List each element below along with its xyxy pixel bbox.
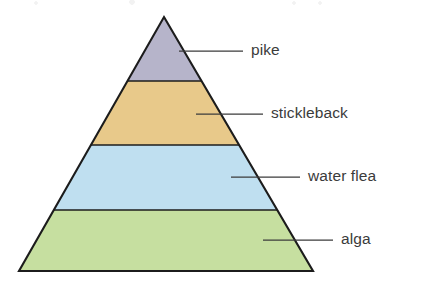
figure-canvas: pike stickleback water flea alga	[0, 0, 428, 290]
label-pike: pike	[251, 41, 280, 58]
ecological-pyramid-diagram: pike stickleback water flea alga	[0, 0, 428, 290]
label-stickleback: stickleback	[271, 104, 348, 121]
pyramid-band-pike[interactable]	[127, 17, 201, 81]
label-water-flea: water flea	[307, 167, 376, 184]
label-alga: alga	[341, 230, 371, 247]
pyramid-band-stickleback[interactable]	[91, 81, 239, 145]
